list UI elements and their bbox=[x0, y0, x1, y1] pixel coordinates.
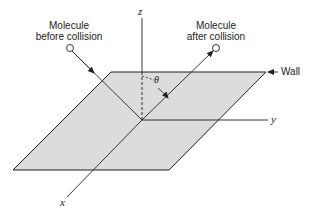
wall-plane bbox=[13, 72, 266, 170]
wall-label: Wall bbox=[281, 66, 300, 77]
z-axis-label: z bbox=[138, 5, 142, 17]
y-axis-label: y bbox=[271, 113, 276, 125]
after-label-line2: after collision bbox=[186, 31, 246, 42]
molecule-before bbox=[67, 45, 74, 52]
molecule-after bbox=[213, 45, 220, 52]
before-label-line1: Molecule bbox=[34, 20, 104, 31]
incoming-arrow bbox=[72, 51, 94, 73]
x-axis-label: x bbox=[60, 196, 65, 208]
after-label: Molecule after collision bbox=[186, 20, 246, 42]
theta-label: θ bbox=[154, 74, 159, 85]
before-label-line2: before collision bbox=[34, 31, 104, 42]
before-label: Molecule before collision bbox=[34, 20, 104, 42]
after-label-line1: Molecule bbox=[186, 20, 246, 31]
